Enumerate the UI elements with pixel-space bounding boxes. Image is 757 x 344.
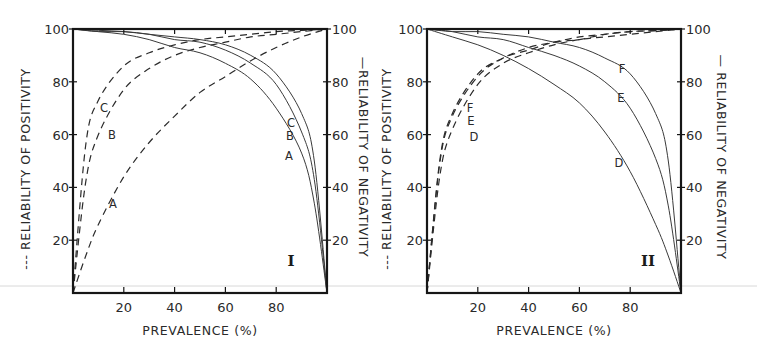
- panel-i: 204060802020404060608080100100PREVALENCE…: [18, 22, 371, 338]
- y-tick-label-left: 20: [406, 233, 423, 248]
- curve-label-f: F: [619, 62, 626, 76]
- curve-label-e: E: [617, 91, 624, 105]
- y-tick-label-right: 80: [332, 75, 349, 90]
- y-tick-label-right: 20: [686, 233, 703, 248]
- x-tick-label: 60: [571, 300, 588, 315]
- curve-label-a: A: [285, 149, 293, 163]
- x-tick-label: 80: [268, 300, 285, 315]
- left-y-axis-title: --- RELIABILITY OF POSITIVITY: [18, 68, 33, 270]
- x-tick-label: 80: [622, 300, 639, 315]
- x-tick-label: 40: [166, 300, 183, 315]
- curve-label-d: D: [470, 130, 479, 144]
- y-tick-label-right: 60: [332, 128, 349, 143]
- panel-ii: 204060802020404060608080100100PREVALENCE…: [379, 22, 729, 338]
- panel-numeral: II: [641, 252, 655, 270]
- panel-numeral: I: [287, 252, 294, 270]
- y-tick-label-right: 60: [686, 128, 703, 143]
- y-tick-label-right: 40: [686, 180, 703, 195]
- left-y-axis-title: --- RELIABILITY OF POSITIVITY: [379, 68, 394, 270]
- y-tick-label-left: 60: [406, 128, 423, 143]
- y-tick-label-right: 80: [686, 75, 703, 90]
- y-tick-label-right: 20: [332, 233, 349, 248]
- y-tick-label-right: 40: [332, 180, 349, 195]
- x-tick-label: 60: [217, 300, 234, 315]
- x-axis-title: PREVALENCE (%): [142, 323, 257, 338]
- x-tick-label: 40: [520, 300, 537, 315]
- right-y-axis-title: —RELIABILITY OF NEGATIVITY: [356, 57, 371, 257]
- y-tick-label-left: 40: [52, 180, 69, 195]
- x-tick-label: 20: [116, 300, 133, 315]
- y-tick-label-right: 100: [332, 22, 357, 37]
- curve-label-f: F: [467, 101, 474, 115]
- y-tick-label-left: 100: [44, 22, 69, 37]
- y-tick-label-left: 40: [406, 180, 423, 195]
- y-tick-label-left: 60: [52, 128, 69, 143]
- curve-label-c: C: [100, 101, 108, 115]
- curve-label-b: B: [108, 128, 116, 142]
- y-tick-label-left: 20: [52, 233, 69, 248]
- y-tick-label-left: 80: [406, 75, 423, 90]
- curve-label-c: C: [287, 116, 295, 130]
- curve-label-d: D: [615, 156, 624, 170]
- curve-label-e: E: [467, 114, 474, 128]
- curve-label-b: B: [286, 129, 294, 143]
- curve-label-a: A: [109, 197, 117, 211]
- y-tick-label-right: 100: [686, 22, 711, 37]
- x-axis-title: PREVALENCE (%): [496, 323, 611, 338]
- figure-canvas: 204060802020404060608080100100PREVALENCE…: [0, 0, 757, 344]
- right-y-axis-title: — RELIABILITY OF NEGATIVITY: [714, 55, 729, 260]
- y-tick-label-left: 100: [398, 22, 423, 37]
- y-tick-label-left: 80: [52, 75, 69, 90]
- x-tick-label: 20: [470, 300, 487, 315]
